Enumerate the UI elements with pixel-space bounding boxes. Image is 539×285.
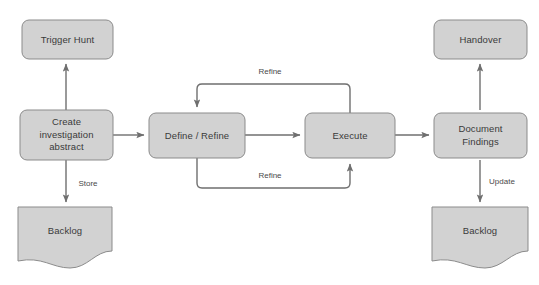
edge-define-to-execute-bottom: Refine — [197, 158, 350, 188]
node-label-document-line1: Document — [458, 123, 502, 134]
node-define-refine[interactable]: Define / Refine — [149, 113, 245, 158]
node-backlog-right[interactable]: Backlog — [432, 207, 528, 268]
node-label-trigger-hunt: Trigger Hunt — [41, 34, 95, 45]
node-execute[interactable]: Execute — [305, 113, 395, 158]
node-document-findings[interactable]: Document Findings — [434, 113, 527, 158]
edge-execute-to-define-top: Refine — [197, 67, 350, 113]
edge-create-to-backlog: Store — [66, 160, 98, 202]
node-handover[interactable]: Handover — [434, 20, 527, 59]
edge-document-to-backlog: Update — [480, 160, 515, 202]
node-label-handover: Handover — [460, 34, 502, 45]
node-trigger-hunt[interactable]: Trigger Hunt — [22, 20, 113, 59]
edge-label-update: Update — [489, 177, 515, 186]
node-label-create-line3: abstract — [49, 141, 84, 152]
node-label-backlog-right: Backlog — [463, 225, 498, 236]
node-create-investigation-abstract[interactable]: Create investigation abstract — [20, 110, 113, 160]
node-label-document-line2: Findings — [462, 136, 499, 147]
edge-label-refine-bottom: Refine — [258, 171, 282, 180]
workflow-diagram: Store Refine Refine U — [0, 0, 539, 285]
edge-label-refine-top: Refine — [258, 67, 282, 76]
node-label-execute: Execute — [332, 130, 367, 141]
node-label-create-line1: Create — [52, 116, 81, 127]
edge-label-store: Store — [78, 179, 98, 188]
diagram-canvas: Store Refine Refine U — [0, 0, 539, 285]
node-backlog-left[interactable]: Backlog — [18, 207, 112, 268]
node-label-define-refine: Define / Refine — [165, 130, 229, 141]
node-label-create-line2: investigation — [39, 129, 93, 140]
node-label-backlog-left: Backlog — [48, 225, 83, 236]
